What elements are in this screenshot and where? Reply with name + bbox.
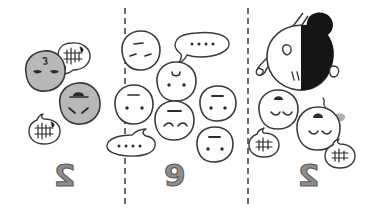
white-face-3: [115, 85, 153, 124]
white-face-5: [200, 86, 236, 121]
white-face-6: [197, 127, 233, 162]
scribble-bubble-left: [249, 128, 279, 157]
panel-number-left: 2: [54, 160, 76, 191]
comic-figure: 2 9 2 Three-panel hand-drawn comic of ro…: [0, 0, 371, 211]
white-face-2: [157, 62, 196, 101]
white-face-1: [122, 31, 160, 70]
ellipsis-bubble-upper: [175, 32, 229, 64]
panel-middle-content: [107, 31, 236, 162]
gray-face-lower: [60, 83, 100, 124]
ellipsis-bubble-lower: [107, 129, 155, 156]
panel-number-right: 2: [298, 160, 320, 191]
white-face-left: [259, 90, 298, 129]
white-face-4: [155, 101, 194, 140]
scribble-bubble-lower: [29, 114, 60, 144]
panel-right-content: [249, 13, 355, 168]
panel-number-middle: 9: [164, 160, 186, 191]
gray-face-upper: [26, 51, 65, 91]
panel-left-content: [26, 43, 100, 144]
